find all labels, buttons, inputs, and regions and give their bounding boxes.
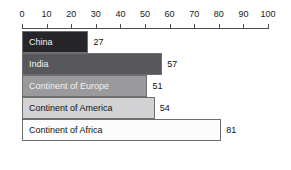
- axis-tick-mark: [194, 24, 195, 29]
- axis-tick-mark: [96, 24, 97, 29]
- axis-tick-mark: [219, 24, 220, 29]
- axis-tick-mark: [22, 24, 23, 29]
- bar[interactable]: China: [22, 31, 88, 53]
- axis-tick-label: 60: [165, 10, 175, 19]
- bar-category-label: Continent of America: [23, 103, 113, 113]
- bar-category-label: China: [23, 37, 53, 47]
- bar-category-label: India: [23, 59, 49, 69]
- axis-tick-mark: [120, 24, 121, 29]
- axis-tick-label: 10: [42, 10, 52, 19]
- bar-value-label: 54: [155, 97, 170, 119]
- bar-category-label: Continent of Europe: [23, 81, 109, 91]
- bar-value-label: 51: [147, 75, 162, 97]
- chart-x-axis: 0102030405060708090100: [0, 0, 291, 31]
- bar-row: China27: [0, 31, 291, 53]
- axis-tick-label: 20: [66, 10, 76, 19]
- axis-tick-label: 80: [214, 10, 224, 19]
- bar[interactable]: Continent of America: [22, 97, 155, 119]
- axis-tick-mark: [268, 24, 269, 29]
- chart-plot-area: China27India57Continent of Europe51Conti…: [0, 31, 291, 170]
- bar-value-label: 27: [88, 31, 103, 53]
- axis-tick-mark: [71, 24, 72, 29]
- bar-row: Continent of America54: [0, 97, 291, 119]
- axis-tick-label: 90: [238, 10, 248, 19]
- axis-tick-mark: [243, 24, 244, 29]
- axis-tick-mark: [170, 24, 171, 29]
- axis-tick-label: 70: [189, 10, 199, 19]
- bar-row: Continent of Africa81: [0, 119, 291, 141]
- bar-value-label: 81: [221, 119, 236, 141]
- bar-row: Continent of Europe51: [0, 75, 291, 97]
- bar[interactable]: India: [22, 53, 162, 75]
- axis-tick-label: 30: [91, 10, 101, 19]
- bar-chart: 0102030405060708090100 China27India57Con…: [0, 0, 291, 170]
- axis-tick-mark: [145, 24, 146, 29]
- bar-row: India57: [0, 53, 291, 75]
- bar-value-label: 57: [162, 53, 177, 75]
- axis-tick-mark: [47, 24, 48, 29]
- bar[interactable]: Continent of Europe: [22, 75, 147, 97]
- bar[interactable]: Continent of Africa: [22, 119, 221, 141]
- axis-tick-label: 100: [260, 10, 275, 19]
- bar-category-label: Continent of Africa: [23, 125, 103, 135]
- axis-tick-label: 0: [19, 10, 24, 19]
- axis-tick-label: 40: [115, 10, 125, 19]
- axis-tick-label: 50: [140, 10, 150, 19]
